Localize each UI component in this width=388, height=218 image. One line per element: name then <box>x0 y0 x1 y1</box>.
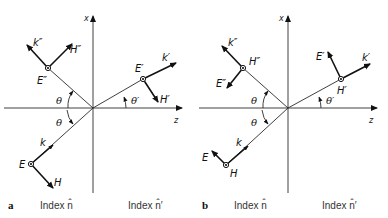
z-axis-label: z <box>173 116 179 125</box>
k-double-prime-arrow <box>27 45 48 68</box>
reflected-angle-arc <box>263 91 268 108</box>
h-label: H <box>230 168 238 179</box>
reflected-angle-label: θ <box>251 95 257 106</box>
k-double-prime-label: k″ <box>33 37 43 48</box>
transmitted-angle-arc <box>319 97 321 108</box>
k-prime-arrow <box>341 64 370 79</box>
h-arrow <box>31 164 53 188</box>
incident-angle-arc <box>67 110 73 124</box>
e-prime-arrow <box>328 52 341 79</box>
transmitted-angle-label: θ′ <box>326 95 335 106</box>
panel-b: x z k″ H″ E″ k′ E′ H′ k E H θ θ′ <box>199 14 377 211</box>
e-prime-label: E′ <box>316 51 325 62</box>
k-prime-label: k′ <box>162 52 171 63</box>
transmitted-angle-label: θ′ <box>131 95 140 106</box>
e-double-prime-arrow <box>227 68 243 88</box>
x-axis-label: x <box>83 14 89 23</box>
panel-a-label: a <box>8 199 14 211</box>
k-arrow <box>226 146 248 165</box>
reflection-refraction-diagram: x z k″ H″ E″ k′ E′ H′ k E H θ θ′ <box>0 0 388 218</box>
x-axis-label: x <box>278 14 284 23</box>
h-prime-label: H′ <box>337 85 348 96</box>
incident-angle-label: θ <box>251 117 257 128</box>
z-axis-label: z <box>368 116 374 125</box>
incident-angle-label: θ <box>56 117 62 128</box>
h-double-prime-arrow <box>48 44 72 68</box>
transmitted-angle-arc <box>124 97 126 108</box>
index-n-left-label: Index n̂ <box>234 198 267 211</box>
reflected-angle-label: θ <box>56 95 62 106</box>
e-label: E <box>202 152 209 163</box>
h-double-prime-label: H″ <box>249 56 261 67</box>
k-prime-arrow <box>143 63 176 79</box>
h-prime-label: H′ <box>160 94 171 105</box>
k-prime-label: k′ <box>362 52 371 63</box>
reflected-angle-arc <box>68 91 73 108</box>
h-label: H <box>54 177 62 188</box>
index-n-left-label: Index n̂ <box>40 198 73 211</box>
incident-angle-arc <box>262 110 268 124</box>
k-label: k <box>236 137 243 148</box>
panel-b-label: b <box>202 199 208 211</box>
k-double-prime-label: k″ <box>228 37 238 48</box>
panel-a: x z k″ H″ E″ k′ E′ H′ k E H θ θ′ <box>4 14 182 211</box>
e-double-prime-label: E″ <box>37 75 47 86</box>
e-prime-label: E′ <box>135 63 144 74</box>
index-n-prime-label: Index n̂′ <box>322 198 357 211</box>
k-label: k <box>40 137 47 148</box>
e-label: E <box>19 159 26 170</box>
reflected-ray <box>48 68 93 108</box>
e-double-prime-label: E″ <box>216 78 226 89</box>
reflected-ray <box>243 68 288 108</box>
h-prime-arrow <box>143 79 158 102</box>
h-double-prime-label: H″ <box>70 44 82 55</box>
k-double-prime-arrow <box>222 46 243 68</box>
index-n-prime-label: Index n̂′ <box>128 198 163 211</box>
